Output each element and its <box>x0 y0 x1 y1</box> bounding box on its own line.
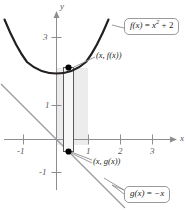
upper-point-leader <box>73 57 95 68</box>
f-callout-tail: + 2 <box>159 20 173 30</box>
lower-point-label: (x, g(x)) <box>93 157 120 166</box>
representative-rectangle <box>64 68 74 152</box>
point-lower-g <box>65 148 71 154</box>
x-tick-label-2: 2 <box>118 147 123 156</box>
x-tick-label-3: 3 <box>150 147 155 156</box>
point-upper-f <box>65 64 71 70</box>
x-axis-label: x <box>180 134 184 143</box>
g-callout-equals: = <box>145 188 155 198</box>
g-callout-leader <box>104 178 124 194</box>
f-callout-arg: (x) <box>133 20 143 30</box>
x-tick-label-neg1: -1 <box>17 147 25 156</box>
x-tick-label-1: 1 <box>86 147 91 156</box>
y-tick-label-neg1: -1 <box>39 168 47 177</box>
x-axis-arrow <box>170 137 177 143</box>
math-figure: x y -1 1 2 3 3 1 -1 (x, f(x)) (x, g(x)) … <box>0 0 189 212</box>
g-callout-body: −x <box>154 188 164 198</box>
g-callout-arg: (x) <box>135 188 145 198</box>
y-axis-arrow <box>54 11 60 18</box>
y-tick-label-1: 1 <box>45 101 50 110</box>
upper-point-label: (x, f(x)) <box>96 51 121 60</box>
f-callout-equals: = <box>143 20 153 30</box>
y-tick-label-3: 3 <box>43 33 48 42</box>
g-function-callout: g(x) = −x <box>124 186 170 203</box>
f-function-callout: f(x) = x2 + 2 <box>124 18 179 35</box>
y-axis-label: y <box>60 2 64 11</box>
